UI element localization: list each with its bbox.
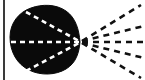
figure-canvas (0, 0, 145, 80)
ray-diagram-svg (0, 0, 145, 80)
dark-blob-shape (10, 5, 80, 74)
